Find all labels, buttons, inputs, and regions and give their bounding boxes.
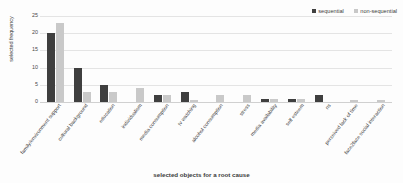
legend-label-sequential: sequential xyxy=(318,8,344,14)
y-tick-label: 25 xyxy=(32,13,38,18)
bar-group xyxy=(310,16,337,102)
x-tick-label: self esteem xyxy=(285,103,305,127)
bar xyxy=(261,99,269,102)
bar xyxy=(315,95,323,102)
bar xyxy=(288,99,296,102)
bar xyxy=(47,33,55,102)
bar-group xyxy=(176,16,203,102)
bar xyxy=(100,85,108,102)
bar-group xyxy=(229,16,256,102)
bar-group xyxy=(42,16,69,102)
x-tick-label: individualism xyxy=(120,103,142,130)
legend-item-sequential: sequential xyxy=(312,8,344,14)
bar xyxy=(56,23,64,102)
bar xyxy=(297,99,305,102)
x-tick-label: family/environment support xyxy=(19,103,61,155)
x-tick-label: tv watching xyxy=(177,103,197,127)
legend-swatch-sequential xyxy=(312,9,316,13)
bar xyxy=(109,92,117,102)
x-tick-label: cultural background xyxy=(57,103,89,142)
bar-group xyxy=(69,16,96,102)
bar-group xyxy=(96,16,123,102)
bar-group xyxy=(336,16,363,102)
bar xyxy=(163,95,171,102)
bar xyxy=(216,95,224,102)
y-tick-label: 20 xyxy=(32,30,38,35)
y-axis-ticks: 0510152025 xyxy=(22,16,38,102)
x-tick-label: stress xyxy=(239,103,252,117)
legend-swatch-non-sequential xyxy=(354,9,358,13)
legend-label-non-sequential: non-sequential xyxy=(360,8,397,14)
bar-group xyxy=(203,16,230,102)
bar xyxy=(154,95,162,102)
bar-group xyxy=(256,16,283,102)
bar xyxy=(74,68,82,102)
x-tick-label: media availability xyxy=(250,103,278,137)
x-axis-title: selected objects for a root cause xyxy=(0,171,403,178)
legend-item-non-sequential: non-sequential xyxy=(354,8,397,14)
x-axis-tick-labels: family/environment supportcultural backg… xyxy=(40,103,392,163)
plot-area xyxy=(40,16,392,102)
x-tick-label: education xyxy=(98,103,116,124)
y-tick-label: 5 xyxy=(35,82,38,87)
bar-groups xyxy=(40,16,392,102)
y-tick-label: 15 xyxy=(32,48,38,53)
bar-group xyxy=(363,16,390,102)
x-tick-label: alcohol consumption xyxy=(191,103,224,143)
bar-group xyxy=(149,16,176,102)
y-tick-label: 0 xyxy=(35,99,38,104)
bar-group xyxy=(122,16,149,102)
bar xyxy=(136,88,144,102)
bar-chart: sequential non-sequential selected frequ… xyxy=(0,0,403,183)
bar xyxy=(181,92,189,102)
chart-legend: sequential non-sequential xyxy=(312,8,397,14)
x-tick-label: ns xyxy=(325,103,332,111)
bar xyxy=(190,100,198,102)
y-axis-title: selected frequency xyxy=(8,4,14,74)
y-tick-label: 10 xyxy=(32,65,38,70)
x-tick-label: media consumption xyxy=(138,103,170,142)
bar xyxy=(83,92,91,102)
bar xyxy=(243,95,251,102)
bar-group xyxy=(283,16,310,102)
